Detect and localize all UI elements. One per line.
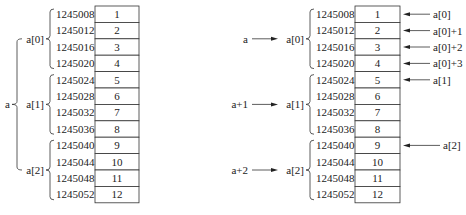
- cell-address: 1245012: [56, 24, 95, 36]
- cell-address: 1245044: [56, 156, 95, 168]
- cell-value: 2: [114, 24, 120, 36]
- cell-value: 4: [375, 57, 381, 69]
- cell-address: 1245052: [316, 188, 355, 200]
- memory-cell-row: 11245008: [56, 6, 139, 22]
- row-group-brace: [306, 140, 314, 200]
- row-group-brace: [306, 75, 314, 135]
- element-pointer-arrow: a[0]+1: [403, 25, 462, 37]
- array-brace: [12, 39, 22, 170]
- cell-value: 10: [372, 156, 384, 168]
- memory-cell-row: 81245036: [316, 121, 400, 137]
- memory-cell-row: 101245044: [316, 154, 400, 170]
- cell-value: 12: [112, 188, 123, 200]
- row-pointer-arrow: a+2: [231, 164, 278, 176]
- memory-cell-row: 91245040: [56, 137, 139, 153]
- memory-cell-row: 11245008: [316, 6, 400, 22]
- memory-cell-row: 21245012: [316, 22, 400, 38]
- memory-cell-row: 61245028: [56, 88, 139, 104]
- cell-address: 1245036: [316, 123, 355, 135]
- cell-address: 1245020: [316, 57, 355, 69]
- row-group-brace: [46, 140, 54, 200]
- memory-cell-row: 121245052: [56, 186, 139, 202]
- pointer-label: a[0]+1: [433, 25, 462, 37]
- left-memory-layout: 1124500821245012312450164124502051245024…: [5, 6, 139, 203]
- cell-address: 1245024: [56, 74, 95, 86]
- memory-cell-row: 71245032: [316, 104, 400, 120]
- memory-cell-row: 21245012: [56, 22, 139, 38]
- row-pointer-arrow: a: [243, 33, 278, 45]
- cell-value: 8: [114, 123, 120, 135]
- cell-address: 1245012: [316, 24, 355, 36]
- memory-cell-row: 41245020: [316, 55, 400, 71]
- pointer-label: a[1]: [433, 74, 451, 86]
- memory-cell-row: 41245020: [56, 55, 139, 71]
- pointer-label: a+2: [231, 164, 248, 176]
- pointer-label: a[0]: [433, 8, 451, 20]
- cell-address: 1245028: [316, 90, 355, 102]
- element-pointer-arrow: a[0]+3: [403, 57, 463, 69]
- cell-address: 1245020: [56, 57, 95, 69]
- element-pointer-arrow: a[1]: [403, 74, 451, 86]
- memory-cell-row: 51245024: [56, 72, 139, 88]
- row-group-label: a[0]: [26, 33, 44, 45]
- cell-address: 1245024: [316, 74, 355, 86]
- memory-cell-row: 101245044: [56, 154, 139, 170]
- cell-value: 6: [375, 90, 381, 102]
- cell-value: 5: [375, 74, 381, 86]
- cell-value: 6: [114, 90, 120, 102]
- memory-cell-row: 91245040: [316, 137, 400, 153]
- cell-address: 1245044: [316, 156, 355, 168]
- cell-address: 1245016: [56, 41, 95, 53]
- memory-cell-row: 61245028: [316, 88, 400, 104]
- cell-value: 2: [375, 24, 381, 36]
- cell-address: 1245028: [56, 90, 95, 102]
- cell-address: 1245008: [316, 8, 355, 20]
- memory-cell-row: 31245016: [316, 39, 400, 55]
- cell-address: 1245016: [316, 41, 355, 53]
- right-memory-layout-with-pointers: 1124500821245012312450164124502051245024…: [231, 6, 463, 203]
- cell-value: 7: [375, 106, 381, 118]
- pointer-label: a: [243, 33, 248, 45]
- memory-cell-row: 121245052: [316, 186, 400, 202]
- cell-address: 1245008: [56, 8, 95, 20]
- memory-cell-row: 51245024: [316, 72, 400, 88]
- row-group-brace: [306, 9, 314, 69]
- memory-cell-row: 31245016: [56, 39, 139, 55]
- cell-address: 1245032: [56, 106, 95, 118]
- pointer-label: a[2]: [443, 139, 461, 151]
- pointer-label: a[0]+2: [433, 41, 462, 53]
- pointer-label: a[0]+3: [433, 57, 463, 69]
- memory-cell-row: 111245048: [316, 170, 400, 186]
- cell-value: 1: [375, 8, 381, 20]
- row-group-label: a[0]: [286, 33, 304, 45]
- cell-value: 3: [114, 41, 120, 53]
- cell-address: 1245052: [56, 188, 95, 200]
- cell-value: 9: [114, 139, 120, 151]
- cell-value: 8: [375, 123, 381, 135]
- memory-cell-row: 81245036: [56, 121, 139, 137]
- cell-address: 1245048: [56, 172, 95, 184]
- memory-diagram-canvas: 1124500821245012312450164124502051245024…: [0, 0, 466, 215]
- cell-value: 10: [112, 156, 124, 168]
- element-pointer-arrow: a[0]: [403, 8, 451, 20]
- cell-address: 1245036: [56, 123, 95, 135]
- cell-value: 4: [114, 57, 120, 69]
- cell-value: 7: [114, 106, 120, 118]
- cell-value: 9: [375, 139, 381, 151]
- cell-value: 5: [114, 74, 120, 86]
- array-label: a: [5, 98, 10, 110]
- row-group-label: a[2]: [286, 164, 304, 176]
- row-group-brace: [46, 9, 54, 69]
- cell-address: 1245032: [316, 106, 355, 118]
- row-group-brace: [46, 75, 54, 135]
- row-group-label: a[2]: [26, 164, 44, 176]
- row-pointer-arrow: a+1: [231, 98, 278, 110]
- cell-value: 11: [372, 172, 383, 184]
- pointer-label: a+1: [231, 98, 248, 110]
- cell-value: 11: [112, 172, 123, 184]
- cell-value: 1: [114, 8, 120, 20]
- row-group-label: a[1]: [286, 98, 304, 110]
- cell-value: 12: [372, 188, 383, 200]
- cell-address: 1245048: [316, 172, 355, 184]
- element-pointer-arrow: a[0]+2: [403, 41, 462, 53]
